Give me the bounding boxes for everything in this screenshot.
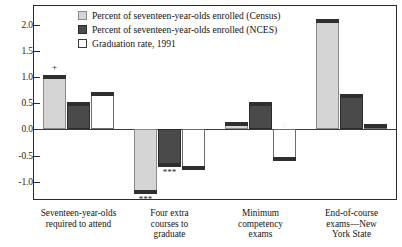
bar-1-series-3 (91, 93, 114, 130)
bar-2-series-1 (134, 129, 157, 192)
category-label-line: graduate (124, 229, 215, 240)
category-label-line: courses to (124, 219, 215, 230)
y-tick-label: -0.5 (7, 151, 33, 160)
y-tick-label: -1.0 (7, 177, 33, 186)
y-tick-label: 1.5 (7, 47, 33, 56)
category-label-line: End-of-course (306, 208, 397, 219)
bar-cap (364, 124, 387, 128)
y-tick-label: 0.0 (7, 125, 33, 134)
y-tick-mark (33, 77, 40, 78)
category-label-line: required to attend (33, 219, 124, 230)
legend-label-nces: Percent of seventeen-year-olds enrolled … (92, 25, 277, 35)
x-category-label-3: Minimumcompetencyexams (215, 208, 306, 240)
y-tick-mark (33, 25, 40, 26)
x-category-label-1: Seventeen-year-oldsrequired to attend (33, 208, 124, 229)
bar-4-series-1 (316, 20, 339, 130)
legend-item-nces: Percent of seventeen-year-olds enrolled … (78, 23, 280, 36)
category-label-line: York State (306, 229, 397, 240)
y-tick-mark (33, 156, 40, 157)
bar-cap (91, 92, 114, 96)
y-tick-mark (33, 182, 40, 183)
bar-2-series-3 (182, 129, 205, 169)
bar-annotation: *** (158, 168, 181, 177)
category-label-line: competency (215, 219, 306, 230)
category-label-line: Four extra (124, 208, 215, 219)
bar-annotation: *** (134, 195, 157, 204)
legend-item-graduation-rate: Graduation rate, 1991 (78, 37, 280, 50)
bar-cap (249, 102, 272, 106)
x-category-label-2: Four extracourses tograduate (124, 208, 215, 240)
y-tick-label: 0.5 (7, 99, 33, 108)
chart-legend: Percent of seventeen-year-olds enrolled … (78, 9, 280, 51)
y-tick-label: 2.0 (7, 20, 33, 29)
category-label-line: Minimum (215, 208, 306, 219)
bar-cap (43, 75, 66, 79)
bar-1-series-1 (43, 76, 66, 130)
bar-cap (182, 166, 205, 170)
bar-annotation: + (43, 63, 66, 72)
legend-label-graduation-rate: Graduation rate, 1991 (92, 39, 176, 49)
bar-1-series-2 (67, 103, 90, 129)
category-label-line: exams—New (306, 219, 397, 230)
y-tick-mark (33, 51, 40, 52)
y-axis: 2.01.51.00.50.0-0.5-1.0 (0, 0, 33, 247)
x-category-label-4: End-of-courseexams—NewYork State (306, 208, 397, 240)
legend-item-census: Percent of seventeen-year-olds enrolled … (78, 9, 280, 22)
bar-cap (316, 19, 339, 23)
bar-chart-figure: 2.01.51.00.50.0-0.5-1.0 Percent of seven… (0, 0, 402, 247)
category-label-line: Seventeen-year-olds (33, 208, 124, 219)
legend-swatch-census-icon (78, 11, 87, 20)
bar-3-series-3 (273, 129, 296, 159)
bar-cap (273, 157, 296, 161)
bar-cap (67, 102, 90, 106)
y-tick-label: 1.0 (7, 73, 33, 82)
bar-2-series-2 (158, 129, 181, 166)
legend-swatch-nces-icon (78, 25, 87, 34)
bar-cap (340, 94, 363, 98)
legend-label-census: Percent of seventeen-year-olds enrolled … (92, 11, 280, 21)
y-tick-mark (33, 103, 40, 104)
bar-3-series-2 (249, 103, 272, 129)
category-label-line: exams (215, 229, 306, 240)
bar-cap (225, 122, 248, 126)
zero-baseline (33, 129, 397, 130)
bar-4-series-2 (340, 95, 363, 130)
legend-swatch-graduation-icon (78, 39, 87, 48)
